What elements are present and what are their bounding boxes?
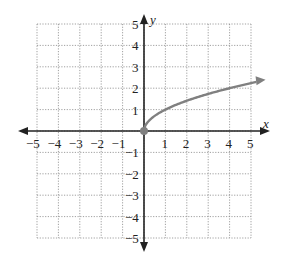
- y-tick-label: −2: [125, 168, 139, 181]
- x-tick-label: −1: [112, 137, 126, 150]
- y-tick-label: −5: [125, 232, 139, 245]
- x-tick-label: −5: [26, 137, 40, 150]
- y-tick-label: −3: [125, 189, 139, 202]
- x-tick-label: 1: [161, 137, 168, 150]
- x-axis-left-arrow-icon: [18, 127, 28, 135]
- y-tick-label: 3: [132, 61, 139, 74]
- x-tick-label: −4: [47, 137, 61, 150]
- y-tick-label: 2: [132, 82, 139, 95]
- x-tick-label: −3: [69, 137, 83, 150]
- y-tick-label: −4: [125, 211, 139, 224]
- x-tick-label: 4: [226, 137, 233, 150]
- x-tick-label: 2: [183, 137, 190, 150]
- x-tick-label: 5: [247, 137, 254, 150]
- sqrt-curve: [144, 82, 256, 131]
- y-axis-down-arrow-icon: [140, 242, 148, 252]
- y-axis-up-arrow-icon: [140, 14, 148, 24]
- y-tick-label: 1: [132, 104, 139, 117]
- y-tick-label: 5: [132, 18, 139, 31]
- x-tick-label: −2: [90, 137, 104, 150]
- coordinate-plane: [0, 0, 283, 260]
- curve-arrow-icon: [256, 76, 266, 85]
- y-tick-label: −1: [125, 146, 139, 159]
- y-tick-label: 4: [132, 39, 139, 52]
- y-axis-label: y: [150, 13, 156, 26]
- start-point: [140, 127, 148, 135]
- x-axis-label: x: [263, 117, 269, 130]
- x-tick-label: 3: [204, 137, 211, 150]
